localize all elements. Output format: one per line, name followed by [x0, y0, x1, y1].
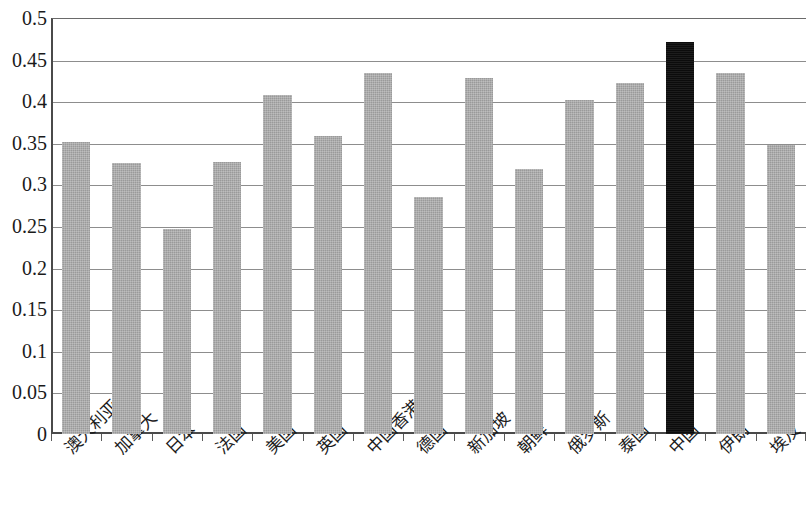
bar	[62, 142, 90, 434]
x-tick	[51, 434, 52, 441]
x-tick	[655, 434, 656, 441]
x-axis-ticks	[51, 434, 806, 442]
bar	[565, 100, 593, 434]
x-tick	[303, 434, 304, 441]
x-tick	[605, 434, 606, 441]
bar	[314, 136, 342, 434]
x-tick	[152, 434, 153, 441]
bar	[364, 73, 392, 434]
x-tick	[202, 434, 203, 441]
x-tick	[403, 434, 404, 441]
y-tick-label: 0.25	[1, 216, 47, 236]
x-tick	[504, 434, 505, 441]
bar	[263, 95, 291, 434]
bar	[767, 145, 795, 434]
y-tick-label: 0.2	[1, 258, 47, 278]
bar	[716, 73, 744, 434]
y-axis: 0.50.450.40.350.30.250.20.150.10.050	[0, 18, 47, 434]
y-tick-label: 0.1	[1, 341, 47, 361]
x-axis-labels: 澳大利亚加拿大日本法国美国英国中国香港德国新加坡朝鲜俄罗斯泰国中国伊朗埃及	[0, 440, 807, 510]
bar	[213, 162, 241, 434]
bar	[414, 197, 442, 434]
y-tick-label: 0.3	[1, 174, 47, 194]
y-tick-label: 0.15	[1, 299, 47, 319]
y-tick-label: 0.4	[1, 91, 47, 111]
x-tick	[252, 434, 253, 441]
bars-layer	[51, 18, 806, 434]
bar	[616, 83, 644, 434]
y-tick-label: 0.05	[1, 382, 47, 402]
bar-chart: 0.50.450.40.350.30.250.20.150.10.050 澳大利…	[0, 0, 807, 510]
bar	[666, 42, 694, 434]
x-tick	[805, 434, 806, 441]
bar	[163, 229, 191, 435]
x-tick	[554, 434, 555, 441]
y-tick-label: 0.45	[1, 50, 47, 70]
bar	[515, 169, 543, 434]
bar	[465, 78, 493, 434]
x-tick	[101, 434, 102, 441]
x-tick	[756, 434, 757, 441]
x-tick	[705, 434, 706, 441]
y-tick-label: 0.35	[1, 133, 47, 153]
x-tick	[353, 434, 354, 441]
x-tick	[454, 434, 455, 441]
y-tick-label: 0.5	[1, 8, 47, 28]
bar	[112, 163, 140, 434]
